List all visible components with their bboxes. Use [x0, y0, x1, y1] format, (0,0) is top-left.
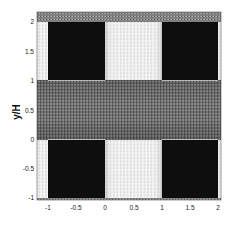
x-tick-label: 0.5: [129, 204, 138, 211]
y-axis-label: y/H: [11, 104, 22, 120]
x-tick-label: 1.5: [185, 204, 194, 211]
solid-block-bottom-left: [48, 140, 105, 198]
y-tick-label: -1: [28, 194, 34, 201]
y-tick-label: 0: [30, 136, 34, 143]
x-tick-label: 0: [103, 204, 107, 211]
y-axis: 2 1.5 1 0.5 0 -0.5 -1 y/H: [11, 18, 34, 201]
plot-area: [37, 12, 221, 200]
solid-block-top-left: [48, 22, 105, 80]
quiver-plot: 2 1.5 1 0.5 0 -0.5 -1 y/H -1 -0.5 0 0.5 …: [0, 0, 240, 233]
top-edge-flow: [37, 12, 221, 22]
y-tick-label: 0.5: [25, 107, 34, 114]
y-tick-label: 1.5: [25, 48, 34, 55]
left-cavity-flow-bottom: [37, 140, 48, 198]
solid-block-bottom-right: [162, 140, 218, 198]
left-cavity-flow-top: [37, 22, 48, 80]
y-tick-label: 2: [30, 18, 34, 25]
y-tick-label: -0.5: [23, 165, 35, 172]
x-tick-label: -0.5: [70, 204, 82, 211]
x-axis: -1 -0.5 0 0.5 1 1.5 2: [45, 204, 220, 211]
solid-block-top-right: [162, 22, 218, 80]
y-tick-label: 1: [30, 77, 34, 84]
x-tick-label: 2: [216, 204, 220, 211]
x-tick-label: -1: [45, 204, 51, 211]
x-tick-label: 1: [160, 204, 164, 211]
